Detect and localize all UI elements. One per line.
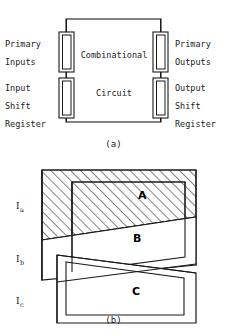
circuit-label: Circuit [74,87,154,100]
output-shift-register-upper [153,32,168,72]
output-shift-register-label-line1: Output [175,82,206,95]
current-label-ia-sub: a [20,206,24,214]
input-shift-register-label-line2: Shift [5,100,31,113]
region-c-label: C [132,285,140,298]
combinational-label: Combinational [74,49,154,62]
primary-inputs-label-line2: Inputs [5,56,36,69]
panel-b-region-diagram: A B C Ia Ib Ic (b) [0,160,227,335]
caption-a: (a) [0,139,227,149]
region-a-label: A [138,189,147,202]
combinational-circuit-boundary [66,19,161,122]
current-label-ia: Ia [16,201,23,211]
panel-a-block-diagram: Combinational Circuit Primary Inputs Inp… [0,0,227,160]
current-label-ib-sub: b [20,259,24,267]
caption-b: (b) [0,315,227,325]
current-label-ic: Ic [16,296,23,306]
current-label-ic-sub: c [20,301,24,309]
input-shift-register-lower [59,78,74,118]
panel-a-drawing [0,0,227,160]
current-label-ib: Ib [16,254,24,264]
input-shift-register-label-line3: Register [5,118,46,131]
input-shift-register-upper [59,32,74,72]
output-shift-register-label-line3: Register [175,118,216,131]
input-shift-register-label-line1: Input [5,82,31,95]
region-b-label: B [133,232,141,245]
output-shift-register-label-line2: Shift [175,100,201,113]
output-shift-register-lower [153,78,168,118]
panel-b-drawing [0,160,227,335]
primary-outputs-label-line2: Outputs [175,56,211,69]
primary-inputs-label-line1: Primary [5,38,41,51]
primary-outputs-label-line1: Primary [175,38,211,51]
figure-container: Combinational Circuit Primary Inputs Inp… [0,0,227,335]
